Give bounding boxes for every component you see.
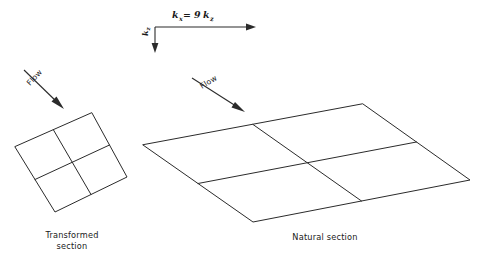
- transformed-section-group: Flow Transformed section: [15, 68, 127, 251]
- kz-label-subscript: z: [145, 26, 151, 31]
- kz-axis-label: k z: [140, 26, 151, 36]
- natural-section-group: Flow Natural section: [143, 73, 470, 242]
- natural-caption: Natural section: [292, 232, 357, 242]
- kx-axis-arrow-icon: [246, 24, 256, 31]
- equation-equals: = 9: [183, 9, 201, 20]
- natural-flow-arrow-icon: [232, 102, 246, 112]
- equation-kz: k: [203, 9, 210, 20]
- transformed-flow-text: Flow: [25, 68, 44, 88]
- kz-axis-arrow-icon: [152, 43, 159, 53]
- seepage-transformed-section-figure: k x = 9 k z k z Flow Transformed section: [0, 0, 485, 265]
- anisotropy-equation: k x = 9 k z: [172, 9, 214, 23]
- equation-kz-subscript: z: [209, 15, 214, 23]
- equation-kx: k: [172, 9, 179, 20]
- transformed-flow-label: Flow: [25, 68, 44, 88]
- transformed-grid-line-2: [35, 145, 110, 180]
- natural-grid-line-2: [198, 142, 417, 184]
- transformed-caption-line1: Transformed: [44, 230, 98, 240]
- transformed-caption-line2: section: [57, 241, 88, 251]
- anisotropy-axes-group: k x = 9 k z k z: [140, 9, 256, 53]
